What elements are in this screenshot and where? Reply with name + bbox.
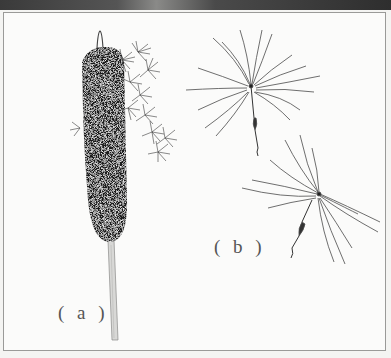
cattail-icon (70, 31, 177, 340)
seed-upper-icon (186, 30, 320, 156)
panel-label-b: ( b ) (214, 236, 266, 258)
panel-label-a: ( a ) (58, 302, 109, 324)
